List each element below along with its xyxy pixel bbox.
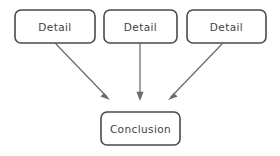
node-conclusion-label: Conclusion [110,123,171,135]
edge-detail-3-to-conclusion [168,44,222,100]
arrowhead-right [168,93,178,100]
arrowhead-middle [136,92,143,101]
arrowhead-left [100,93,110,100]
edge-detail-1-to-conclusion [56,44,110,100]
edge-line-right [171,44,222,97]
edge-detail-2-to-conclusion [136,44,143,101]
diagram-canvas: Detail Detail Detail Conclusion [0,0,280,156]
node-detail-3[interactable]: Detail [187,10,266,43]
node-detail-2[interactable]: Detail [104,10,177,43]
flow-diagram: Detail Detail Detail Conclusion [0,0,280,156]
node-detail-2-label: Detail [124,21,157,33]
node-detail-3-label: Detail [210,21,243,33]
node-detail-1-label: Detail [38,21,71,33]
edge-line-left [56,44,107,97]
node-detail-1[interactable]: Detail [15,10,95,43]
node-conclusion[interactable]: Conclusion [101,112,180,145]
